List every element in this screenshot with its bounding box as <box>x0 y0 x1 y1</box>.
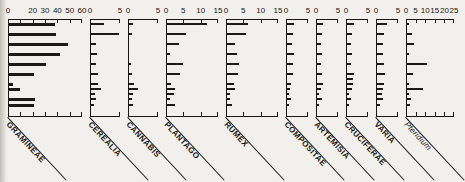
axis-tick <box>70 19 71 23</box>
bar <box>287 83 291 85</box>
tick-label: 20 <box>28 7 37 15</box>
bar <box>407 104 410 106</box>
bar <box>227 83 234 85</box>
bar <box>407 98 411 100</box>
tick-label: 5 <box>156 7 160 15</box>
bar <box>227 33 246 35</box>
axis-tick-labels: 0510152025 <box>406 7 454 18</box>
bar <box>129 93 133 95</box>
axis-line-top <box>316 19 338 20</box>
axis-line-top <box>166 19 218 20</box>
bar <box>317 33 322 35</box>
bar <box>407 33 412 35</box>
bar <box>317 23 323 25</box>
bar <box>167 73 180 75</box>
bar <box>377 43 383 45</box>
panel-cerealia: 05CEREALIA <box>90 0 120 182</box>
bar <box>129 73 132 75</box>
bar <box>91 33 119 35</box>
bar <box>91 83 98 85</box>
bar <box>9 23 55 26</box>
axis-tick <box>217 19 218 23</box>
bar <box>167 93 174 95</box>
bar <box>317 43 321 45</box>
tick-label: 0 <box>6 7 10 15</box>
bar <box>287 98 291 100</box>
bar <box>167 33 186 35</box>
tick-label: 10 <box>256 7 265 15</box>
axis-tick <box>277 19 278 23</box>
tick-label: 15 <box>214 7 223 15</box>
bar <box>9 88 20 91</box>
axis-line-bottom <box>226 116 278 117</box>
bar <box>377 23 387 25</box>
bar <box>129 63 131 65</box>
panel-varia: 05VARIA <box>376 0 398 182</box>
bar <box>91 43 96 45</box>
bar <box>347 63 351 65</box>
bar <box>407 73 413 75</box>
bar <box>317 83 323 85</box>
axis-tick <box>444 19 445 23</box>
bar <box>287 88 290 90</box>
tick-label: 0 <box>164 7 168 15</box>
axis-tick <box>81 19 82 23</box>
axis-line-bottom <box>90 116 120 117</box>
tick-label: 5 <box>396 7 400 15</box>
bar <box>347 33 352 35</box>
bar <box>377 104 380 106</box>
bar <box>377 98 383 100</box>
bar <box>91 98 96 100</box>
bar <box>9 33 56 36</box>
axis-tick <box>183 112 184 117</box>
tick-label: 0 <box>224 7 228 15</box>
tick-label: 0 <box>314 7 318 15</box>
tick-label: 0 <box>88 7 92 15</box>
taxon-label-cerealia: CEREALIA <box>86 120 123 158</box>
bar <box>317 73 322 75</box>
axis-tick <box>119 112 120 117</box>
bar <box>167 43 179 45</box>
bar <box>91 53 97 55</box>
axis-tick <box>81 112 82 117</box>
axis-line-top <box>406 19 454 20</box>
bar <box>287 73 293 75</box>
tick-label: 5 <box>241 7 245 15</box>
bar <box>227 73 238 75</box>
axis-tick <box>307 19 308 23</box>
axis-tick-labels: 02030405060 <box>8 7 82 18</box>
tick-label: 0 <box>344 7 348 15</box>
axis-line-bottom <box>376 116 398 117</box>
bar <box>317 88 321 90</box>
bar <box>91 63 96 65</box>
panel-compositae: 05COMPOSITAE <box>286 0 308 182</box>
axis-tick <box>70 112 71 117</box>
bar <box>317 104 319 106</box>
bar <box>287 53 294 55</box>
axis-tick-labels: 05 <box>286 7 308 18</box>
bar <box>227 93 230 95</box>
bar <box>9 43 68 46</box>
bar <box>129 33 132 35</box>
axis-line-top <box>376 19 398 20</box>
axis-tick <box>453 112 454 117</box>
tick-label: 5 <box>306 7 310 15</box>
axis-tick-labels: 05 <box>90 7 120 18</box>
bar <box>129 23 133 25</box>
bar <box>227 98 230 100</box>
axis-tick <box>435 19 436 23</box>
bar <box>91 73 98 75</box>
tick-label: 0 <box>284 7 288 15</box>
bar <box>227 23 248 25</box>
bar <box>287 63 293 65</box>
tick-label: 5 <box>336 7 340 15</box>
bar <box>407 53 409 55</box>
tick-label: 25 <box>450 7 459 15</box>
axis-tick <box>416 112 417 117</box>
axis-line-bottom <box>406 116 454 117</box>
bar <box>347 78 353 80</box>
bar <box>9 73 34 76</box>
tick-label: 30 <box>41 7 50 15</box>
bar <box>91 104 94 106</box>
bar <box>227 63 239 65</box>
